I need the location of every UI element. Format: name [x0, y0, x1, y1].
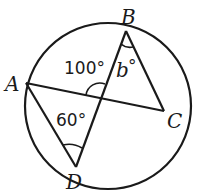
angle-label-100: 100°	[64, 58, 105, 78]
segment-BD	[76, 31, 126, 167]
segment-AC	[26, 83, 164, 111]
label-A: A	[3, 72, 19, 96]
angle-label-b-degree: °	[128, 56, 137, 76]
angle-label-b: b	[116, 58, 129, 82]
label-B: B	[120, 5, 136, 29]
label-C: C	[167, 109, 182, 133]
angle-arc-D	[63, 144, 82, 148]
circle-diagram: B A C D 100° b ° 60°	[0, 0, 200, 195]
angle-label-60: 60°	[56, 110, 86, 130]
circle	[25, 23, 191, 189]
label-D: D	[65, 170, 82, 194]
